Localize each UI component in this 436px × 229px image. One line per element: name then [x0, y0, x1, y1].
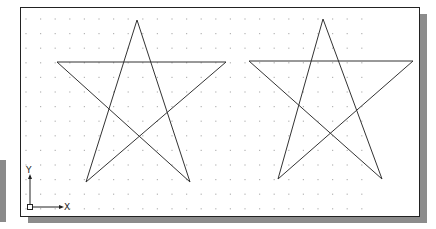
grid-dot: [157, 18, 158, 19]
drawing-canvas[interactable]: [0, 0, 436, 229]
grid-dot: [288, 194, 289, 195]
grid-dot: [84, 48, 85, 49]
grid-dot: [288, 164, 289, 165]
grid-dot: [98, 77, 99, 78]
grid-dot: [98, 208, 99, 209]
grid-dot: [215, 179, 216, 180]
grid-dot: [303, 121, 304, 122]
grid-dot: [332, 208, 333, 209]
grid-dot: [332, 91, 333, 92]
grid-dot: [157, 194, 158, 195]
grid-dot: [113, 48, 114, 49]
grid-dot: [332, 77, 333, 78]
grid-dot: [244, 121, 245, 122]
grid-dot: [40, 62, 41, 63]
grid-dot: [347, 77, 348, 78]
star-right[interactable]: [249, 19, 413, 179]
grid-dot: [186, 135, 187, 136]
grid-dot: [332, 106, 333, 107]
grid-dot: [157, 48, 158, 49]
grid-dot: [303, 208, 304, 209]
grid-dot: [332, 48, 333, 49]
grid-dot: [317, 208, 318, 209]
grid-dot: [113, 179, 114, 180]
grid-dot: [361, 91, 362, 92]
ucs-icon: [28, 174, 65, 210]
grid-dot: [186, 77, 187, 78]
grid-dot: [128, 77, 129, 78]
grid-dot: [288, 91, 289, 92]
grid-dot: [274, 179, 275, 180]
grid-dot: [201, 77, 202, 78]
grid-dot: [274, 48, 275, 49]
grid-dot: [274, 135, 275, 136]
grid-dot: [288, 121, 289, 122]
grid-dot: [317, 62, 318, 63]
grid-dot: [142, 18, 143, 19]
grid-dot: [128, 106, 129, 107]
grid-dot: [157, 106, 158, 107]
grid-dot: [259, 33, 260, 34]
grid-dot: [303, 135, 304, 136]
grid-dot: [215, 208, 216, 209]
grid-dot: [347, 194, 348, 195]
grid-dot: [98, 150, 99, 151]
grid-dot: [274, 77, 275, 78]
grid-dot: [259, 135, 260, 136]
grid-dot: [128, 33, 129, 34]
grid-dot: [347, 121, 348, 122]
grid-dot: [215, 77, 216, 78]
grid-dot: [142, 121, 143, 122]
grid-dot: [142, 48, 143, 49]
grid-dot: [157, 77, 158, 78]
grid-dot: [288, 135, 289, 136]
grid-dot: [317, 194, 318, 195]
grid-dot: [25, 106, 26, 107]
star-left[interactable]: [57, 20, 226, 182]
grid-dot: [84, 91, 85, 92]
grid-dot: [40, 179, 41, 180]
grid-dot: [69, 150, 70, 151]
grid-dot: [98, 48, 99, 49]
grid-dot: [332, 179, 333, 180]
grid-dot: [186, 208, 187, 209]
grid-dot: [40, 194, 41, 195]
grid-dot: [259, 77, 260, 78]
grid-dot: [55, 18, 56, 19]
grid-dot: [288, 33, 289, 34]
grid-dot: [347, 150, 348, 151]
grid-dot: [55, 77, 56, 78]
ucs-x-label: X: [64, 203, 70, 212]
grid-dot: [55, 62, 56, 63]
grid-dot: [84, 164, 85, 165]
grid-dot: [317, 179, 318, 180]
grid-dot: [230, 48, 231, 49]
grid-dot: [186, 150, 187, 151]
grid-dot: [347, 179, 348, 180]
grid-dot: [84, 208, 85, 209]
grid-dot: [288, 62, 289, 63]
grid-dot: [361, 194, 362, 195]
grid-dot: [142, 106, 143, 107]
grid-dot: [201, 91, 202, 92]
grid-dot: [230, 135, 231, 136]
grid-dot: [128, 179, 129, 180]
grid-dot: [303, 48, 304, 49]
grid-dot: [274, 121, 275, 122]
grid-dot: [69, 18, 70, 19]
grid-dot: [157, 135, 158, 136]
grid-dot: [25, 179, 26, 180]
grid-dot: [244, 33, 245, 34]
grid-dot: [317, 164, 318, 165]
grid-dot: [201, 33, 202, 34]
grid-dot: [25, 150, 26, 151]
grid-dot: [347, 135, 348, 136]
grid-dot: [25, 33, 26, 34]
grid-dot: [128, 91, 129, 92]
grid-dot: [244, 62, 245, 63]
grid-dot: [201, 208, 202, 209]
grid-dot: [40, 135, 41, 136]
grid-dot: [361, 33, 362, 34]
grid-dot: [186, 48, 187, 49]
grid-dot: [98, 194, 99, 195]
